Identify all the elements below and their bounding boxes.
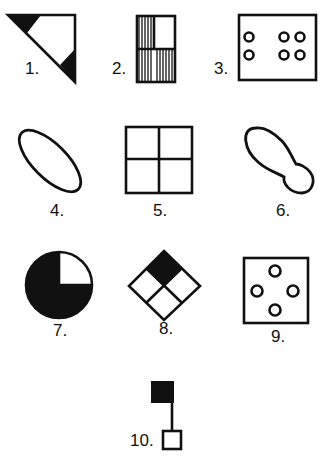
figure-1-triangle bbox=[8, 15, 75, 82]
figure-6-peanut bbox=[246, 128, 313, 193]
figure-1-label: 1. bbox=[25, 59, 39, 78]
figure-9-label: 9. bbox=[271, 327, 285, 346]
figure-4-ellipse bbox=[10, 121, 91, 202]
figure-2-hatched-rectangle bbox=[137, 16, 175, 82]
figure-10-label: 10. bbox=[130, 431, 154, 450]
figure-3-label: 3. bbox=[214, 59, 228, 78]
figure-6-label: 6. bbox=[276, 201, 290, 220]
symbol-figure-sheet: 1. 2. 3. 4. bbox=[0, 0, 330, 465]
figure-8-label: 8. bbox=[159, 319, 173, 338]
figure-2-label: 2. bbox=[112, 59, 126, 78]
figure-3-rectangle-six-circles bbox=[239, 15, 316, 80]
figure-5-four-squares bbox=[126, 127, 192, 193]
figure-7-pie bbox=[26, 252, 92, 318]
figure-8-diamond bbox=[129, 251, 200, 320]
figure-9-square-four-circles bbox=[244, 258, 308, 323]
figure-10-block-and-square bbox=[151, 381, 181, 449]
figure-7-label: 7. bbox=[53, 321, 67, 340]
figure-5-label: 5. bbox=[153, 201, 167, 220]
figure-4-label: 4. bbox=[50, 201, 64, 220]
